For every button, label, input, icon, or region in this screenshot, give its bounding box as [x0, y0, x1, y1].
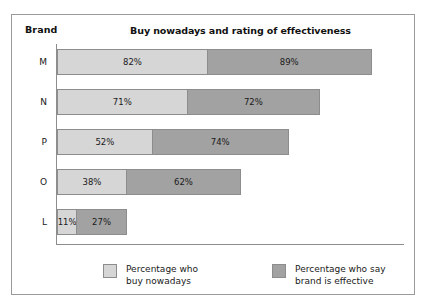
bar-value-buy: 38%	[83, 177, 102, 187]
bar-value-effective: 89%	[280, 57, 299, 67]
legend-item-effective[interactable]: Percentage who say brand is effective	[272, 263, 385, 287]
bar-value-effective: 72%	[244, 97, 263, 107]
bar-segment-effective[interactable]: 62%	[126, 169, 241, 195]
bar-segment-effective[interactable]: 89%	[207, 49, 372, 75]
legend-label-effective: Percentage who say brand is effective	[295, 263, 385, 287]
bar-segment-effective[interactable]: 27%	[76, 209, 127, 235]
bar-label-l: L	[16, 209, 56, 235]
table-row: L 11% 27%	[57, 209, 127, 235]
bar-value-effective: 74%	[211, 137, 230, 147]
bar-value-buy: 52%	[95, 137, 114, 147]
table-row: P 52% 74%	[57, 129, 289, 155]
bar-value-buy: 71%	[113, 97, 132, 107]
table-row: M 82% 89%	[57, 49, 372, 75]
bar-segment-buy[interactable]: 82%	[57, 49, 208, 75]
bar-value-buy: 82%	[123, 57, 142, 67]
bar-segment-buy[interactable]: 52%	[57, 129, 153, 155]
chart-frame: Brand Buy nowadays and rating of effecti…	[11, 14, 415, 295]
bar-label-p: P	[16, 129, 56, 155]
bar-value-buy: 11%	[58, 217, 77, 227]
legend-item-buy[interactable]: Percentage who buy nowadays	[103, 263, 198, 287]
x-axis-line	[56, 244, 404, 245]
legend: Percentage who buy nowadays Percentage w…	[56, 263, 416, 297]
legend-swatch-icon	[272, 264, 286, 278]
table-row: N 71% 72%	[57, 89, 320, 115]
bar-value-effective: 62%	[174, 177, 193, 187]
bar-segment-effective[interactable]: 72%	[187, 89, 320, 115]
legend-swatch-icon	[103, 264, 117, 278]
bar-label-o: O	[16, 169, 56, 195]
legend-label-buy: Percentage who buy nowadays	[126, 263, 198, 287]
bar-segment-buy[interactable]: 11%	[57, 209, 77, 235]
bar-segment-effective[interactable]: 74%	[152, 129, 289, 155]
chart-title: Buy nowadays and rating of effectiveness	[12, 25, 414, 36]
plot-area: M 82% 89% N 71% 72% P 52% 74%	[56, 44, 404, 245]
bar-label-n: N	[16, 89, 56, 115]
bar-segment-buy[interactable]: 71%	[57, 89, 188, 115]
bar-value-effective: 27%	[92, 217, 111, 227]
bar-segment-buy[interactable]: 38%	[57, 169, 127, 195]
bar-label-m: M	[16, 49, 56, 75]
table-row: O 38% 62%	[57, 169, 241, 195]
